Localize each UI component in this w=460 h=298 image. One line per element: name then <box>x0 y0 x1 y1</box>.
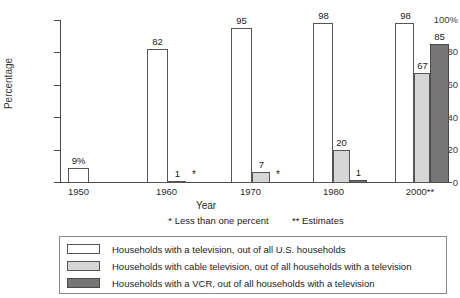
bar-label-1970-television: 95 <box>221 16 262 26</box>
footnotes: * Less than one percent ** Estimates <box>60 215 452 227</box>
bar-label-1980-television: 98 <box>303 11 344 21</box>
x-tick-label-1960: 1960 <box>146 186 187 197</box>
legend: Households with a television, out of all… <box>59 236 447 294</box>
legend-item-cable: Households with cable television, out of… <box>67 260 411 272</box>
bar-1980-television <box>313 23 333 183</box>
legend-swatch-vcr <box>67 278 100 288</box>
x-tick-label-1970: 1970 <box>230 186 271 197</box>
x-tick-label-2000: 2000** <box>395 186 445 197</box>
bar-label-2000-television: 98 <box>385 11 426 21</box>
x-axis-label: Year <box>176 200 236 211</box>
footnote-less-than-one-percent: * Less than one percent <box>168 215 268 226</box>
legend-swatch-cable <box>67 261 100 271</box>
legend-item-television: Households with a television, out of all… <box>67 243 345 255</box>
y-axis-label: Percentage <box>3 44 14 124</box>
less-than-one-percent-star-1960: * <box>192 170 196 180</box>
bar-1950-television <box>68 168 89 183</box>
legend-swatch-television <box>67 244 100 254</box>
bar-2000-cable <box>414 73 430 183</box>
legend-label-vcr: Households with a VCR, out of all househ… <box>112 278 374 289</box>
x-tick-label-1950: 1950 <box>58 186 99 197</box>
legend-label-cable: Households with cable television, out of… <box>112 261 411 272</box>
bar-1960-cable <box>168 181 186 183</box>
bar-label-1950-television: 9% <box>58 156 99 166</box>
bar-label-2000-vcr: 85 <box>419 32 460 42</box>
plot-area: Percentage 100% 80 60 40 20 0 9% 82 1 * … <box>0 0 458 200</box>
legend-item-vcr: Households with a VCR, out of all househ… <box>67 277 374 289</box>
legend-label-television: Households with a television, out of all… <box>112 244 345 255</box>
footnote-estimates: ** Estimates <box>292 215 344 226</box>
x-tick-label-1980: 1980 <box>313 186 354 197</box>
bar-label-1980-cable: 20 <box>321 138 362 148</box>
bar-label-1980-vcr: 1 <box>338 168 379 178</box>
bar-label-1960-television: 82 <box>137 37 178 47</box>
bar-1980-vcr <box>350 180 367 183</box>
bar-2000-television <box>395 23 414 183</box>
bar-1970-cable <box>252 172 270 183</box>
bar-2000-vcr <box>430 44 449 183</box>
bar-1980-cable <box>333 150 350 183</box>
less-than-one-percent-star-1970: * <box>276 170 280 180</box>
bar-1960-television <box>147 49 168 183</box>
